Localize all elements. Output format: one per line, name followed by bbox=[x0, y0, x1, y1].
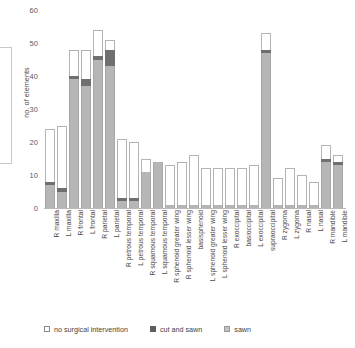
x-axis-label-r-nasal: R nasal bbox=[305, 210, 312, 233]
segment-no-surgical-intervention bbox=[285, 168, 294, 204]
legend-label: cut and sawn bbox=[160, 325, 202, 334]
bar-l-squamous-temporal[interactable] bbox=[153, 162, 162, 208]
x-axis-label-r-sphenoid-lesser-wing: R sphenoid lesser wing bbox=[185, 210, 192, 279]
segment-sawn bbox=[153, 162, 162, 208]
segment-no-surgical-intervention bbox=[177, 162, 186, 205]
x-axis-label-r-frontal: R frontal bbox=[77, 210, 84, 235]
bar-r-parietal[interactable] bbox=[93, 30, 102, 208]
x-axis-label-r-maxilla: R maxilla bbox=[53, 210, 60, 238]
x-axis-label-r-mandible: R mandible bbox=[329, 210, 336, 244]
segment-cut-and-sawn bbox=[105, 50, 114, 67]
bar-l-exoccipital[interactable] bbox=[249, 165, 258, 208]
legend-label: no surgical intervention bbox=[54, 325, 128, 334]
plot-area bbox=[44, 10, 344, 208]
bar-l-sphenoid-lesser-wing[interactable] bbox=[213, 168, 222, 208]
bar-l-sphenoid-greater-wing[interactable] bbox=[201, 168, 210, 208]
segment-sawn bbox=[141, 172, 150, 208]
bar-r-squamous-temporal[interactable] bbox=[141, 159, 150, 208]
bar-l-zygoma[interactable] bbox=[285, 168, 294, 208]
segment-sawn bbox=[105, 66, 114, 208]
segment-no-surgical-intervention bbox=[93, 30, 102, 56]
y-axis-tick-0: 0 bbox=[12, 204, 38, 213]
y-axis-tick-30: 30 bbox=[12, 105, 38, 114]
bar-r-frontal[interactable] bbox=[69, 50, 78, 208]
bar-r-maxilla[interactable] bbox=[45, 129, 54, 208]
segment-no-surgical-intervention bbox=[237, 168, 246, 204]
segment-no-surgical-intervention bbox=[201, 168, 210, 204]
x-axis-label-l-petrous-temporal: L petrous temporal bbox=[137, 210, 144, 266]
bar-r-mandible[interactable] bbox=[321, 145, 330, 208]
segment-no-surgical-intervention bbox=[249, 165, 258, 205]
segment-no-surgical-intervention bbox=[69, 50, 78, 76]
bar-r-sphenoid-greater-wing[interactable] bbox=[165, 165, 174, 208]
bar-basisphenoid[interactable] bbox=[189, 155, 198, 208]
segment-sawn bbox=[117, 201, 126, 208]
bar-r-petrous-temporal[interactable] bbox=[117, 139, 126, 208]
legend-label: sawn bbox=[234, 325, 251, 334]
segment-sawn bbox=[261, 53, 270, 208]
bar-r-exoccipital[interactable] bbox=[225, 168, 234, 208]
x-axis-label-l-exoccipital: L exoccipital bbox=[257, 210, 264, 247]
x-axis-label-r-zygoma: R zygoma bbox=[281, 210, 288, 240]
segment-no-surgical-intervention bbox=[297, 175, 306, 205]
segment-no-surgical-intervention bbox=[165, 165, 174, 205]
x-axis-label-supraoccipital: supraoccipital bbox=[269, 210, 276, 251]
segment-no-surgical-intervention bbox=[189, 155, 198, 205]
y-axis-ticks: 0102030405060 bbox=[8, 10, 38, 208]
x-axis-label-r-parietal: R parietal bbox=[101, 210, 108, 239]
segment-sawn bbox=[129, 201, 138, 208]
x-axis-label-l-mandible: L mandible bbox=[341, 210, 348, 243]
segment-no-surgical-intervention bbox=[141, 159, 150, 172]
bar-l-petrous-temporal[interactable] bbox=[129, 142, 138, 208]
x-axis-label-l-squamous-temporal: L squamous temporal bbox=[161, 210, 168, 274]
bar-r-sphenoid-lesser-wing[interactable] bbox=[177, 162, 186, 208]
segment-no-surgical-intervention bbox=[321, 145, 330, 158]
segment-sawn bbox=[45, 185, 54, 208]
y-axis-tick-60: 60 bbox=[12, 6, 38, 15]
segment-no-surgical-intervention bbox=[81, 50, 90, 80]
segment-cut-and-sawn bbox=[81, 79, 90, 86]
x-axis-label-basioccipital: basioccipital bbox=[245, 210, 252, 247]
bar-basioccipital[interactable] bbox=[237, 168, 246, 208]
x-axis-line bbox=[44, 208, 346, 209]
segment-sawn bbox=[57, 192, 66, 209]
segment-no-surgical-intervention bbox=[213, 168, 222, 204]
x-axis-label-l-maxilla: L maxilla bbox=[65, 210, 72, 236]
bar-l-mandible[interactable] bbox=[333, 155, 342, 208]
x-axis-label-basisphenoid: basisphenoid bbox=[197, 210, 204, 249]
x-axis-labels: R maxillaL maxillaR frontalL frontalR pa… bbox=[44, 210, 346, 302]
legend-swatch-sawn bbox=[224, 326, 230, 332]
x-axis-label-l-frontal: L frontal bbox=[89, 210, 96, 234]
bar-l-nasal[interactable] bbox=[309, 182, 318, 208]
segment-no-surgical-intervention bbox=[261, 33, 270, 50]
legend-item[interactable]: cut and sawn bbox=[150, 325, 202, 334]
y-axis-tick-40: 40 bbox=[12, 72, 38, 81]
segment-no-surgical-intervention bbox=[57, 126, 66, 189]
bar-r-zygoma[interactable] bbox=[273, 178, 282, 208]
x-axis-label-l-nasal: L nasal bbox=[317, 210, 324, 231]
x-axis-label-l-sphenoid-lesser-wing: L sphenoid lesser wing bbox=[221, 210, 228, 278]
legend-item[interactable]: no surgical intervention bbox=[44, 325, 128, 334]
y-axis-tick-20: 20 bbox=[12, 138, 38, 147]
x-axis-label-r-petrous-temporal: R petrous temporal bbox=[125, 210, 132, 267]
segment-no-surgical-intervention bbox=[105, 40, 114, 50]
segment-no-surgical-intervention bbox=[333, 155, 342, 162]
bar-supraoccipital[interactable] bbox=[261, 33, 270, 208]
bar-l-parietal[interactable] bbox=[105, 40, 114, 208]
x-axis-label-r-exoccipital: R exoccipital bbox=[233, 210, 240, 248]
segment-no-surgical-intervention bbox=[309, 182, 318, 205]
y-axis-tick-10: 10 bbox=[12, 171, 38, 180]
segment-sawn bbox=[93, 60, 102, 209]
legend-item[interactable]: sawn bbox=[224, 325, 251, 334]
bar-l-maxilla[interactable] bbox=[57, 126, 66, 208]
x-axis-label-l-sphenoid-greater-wing: L sphenoid greater wing bbox=[209, 210, 216, 281]
x-axis-label-r-sphenoid-greater-wing: R sphenoid greater wing bbox=[173, 210, 180, 283]
legend-swatch-cut-and-sawn bbox=[150, 326, 156, 332]
stacked-bar-chart: no. of elements 0102030405060 R maxillaL… bbox=[0, 0, 355, 348]
legend-swatch-no-intervention bbox=[44, 326, 50, 332]
bar-l-frontal[interactable] bbox=[81, 50, 90, 208]
bars-container bbox=[44, 10, 344, 208]
y-axis-tick-50: 50 bbox=[12, 39, 38, 48]
segment-no-surgical-intervention bbox=[117, 139, 126, 198]
bar-r-nasal[interactable] bbox=[297, 175, 306, 208]
